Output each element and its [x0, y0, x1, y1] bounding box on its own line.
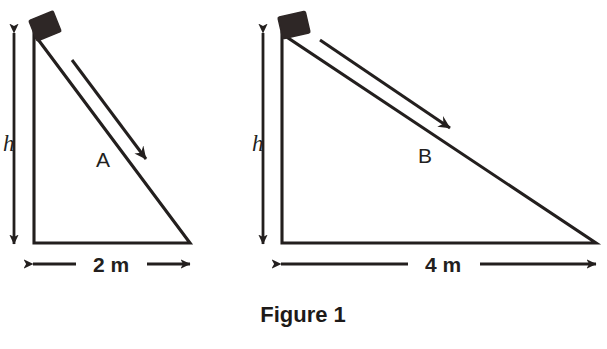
incline-a-label: A — [96, 148, 110, 171]
incline-b-height-label: h — [252, 131, 264, 156]
incline-a-base-label: 2 m — [93, 253, 129, 276]
incline-b-base-label: 4 m — [425, 253, 461, 276]
incline-a-height-label: h — [3, 131, 15, 156]
figure-1-diagram: A h 2 m B h 4 m Figu — [0, 0, 607, 349]
figure-caption: Figure 1 — [260, 302, 346, 327]
incline-b-label: B — [418, 144, 432, 167]
figure-background — [0, 0, 607, 349]
